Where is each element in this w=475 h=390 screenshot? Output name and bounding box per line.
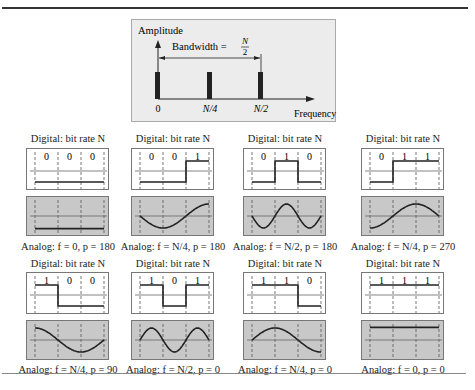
bit-value: 1 <box>425 275 430 286</box>
digital-label: Digital: bit rate N <box>8 133 128 144</box>
bit-value: 0 <box>307 151 312 162</box>
top-rule <box>2 7 468 9</box>
bit-value: 0 <box>379 151 384 162</box>
bandwidth-numerator: N <box>241 36 249 46</box>
spectrum-diagram: Amplitude Bandwidth = N 2 0 N/4 N/2 Freq… <box>131 19 336 122</box>
bit-value: 0 <box>261 151 266 162</box>
bit-value: 1 <box>284 275 289 286</box>
tick-n2: N/2 <box>253 103 268 114</box>
bit-value: 1 <box>379 275 384 286</box>
digital-label: Digital: bit rate N <box>113 133 233 144</box>
bandwidth-denominator: 2 <box>243 47 248 57</box>
bottom-rule <box>2 373 466 374</box>
analog-label: Analog: f = N/4, p = 180 <box>108 241 238 252</box>
analog-signal-box <box>361 320 444 360</box>
digital-label: Digital: bit rate N <box>343 133 463 144</box>
spectrum-bar-n4 <box>207 72 212 99</box>
y-axis-arrow-icon <box>155 40 161 48</box>
bit-value: 1 <box>261 275 266 286</box>
digital-signal-box: 001 <box>131 148 214 190</box>
bit-value: 1 <box>195 275 200 286</box>
digital-signal-box: 110 <box>243 272 326 314</box>
digital-label: Digital: bit rate N <box>225 258 345 269</box>
bit-value: 1 <box>149 275 154 286</box>
analog-label: Analog: f = N/2, p = 180 <box>220 241 350 252</box>
digital-label: Digital: bit rate N <box>225 133 345 144</box>
bit-value: 0 <box>90 151 95 162</box>
analog-label: Analog: f = N/4, p = 270 <box>338 241 468 252</box>
bit-value: 0 <box>90 275 95 286</box>
bit-value: 0 <box>44 151 49 162</box>
bit-value: 0 <box>307 275 312 286</box>
bit-value: 0 <box>67 275 72 286</box>
bit-value: 1 <box>402 275 407 286</box>
spectrum-plot: Amplitude Bandwidth = N 2 0 N/4 N/2 Freq… <box>132 20 337 123</box>
bandwidth-label: Bandwidth = <box>172 41 227 52</box>
x-axis-arrow-icon <box>306 96 315 102</box>
bandwidth-arrow-right-icon <box>254 56 260 60</box>
analog-signal-box <box>131 320 214 360</box>
digital-signal-box: 011 <box>361 148 444 190</box>
bit-value: 1 <box>425 151 430 162</box>
digital-signal-box: 010 <box>243 148 326 190</box>
bit-value: 0 <box>172 151 177 162</box>
analog-signal-box <box>131 196 214 236</box>
digital-signal-box: 000 <box>26 148 109 190</box>
tick-n4: N/4 <box>202 103 217 114</box>
bit-value: 1 <box>402 151 407 162</box>
bit-value: 0 <box>172 275 177 286</box>
bit-value: 1 <box>284 151 289 162</box>
amplitude-axis-label: Amplitude <box>138 25 183 36</box>
frequency-axis-label: Frequency <box>294 108 336 119</box>
spectrum-bar-0 <box>155 72 160 99</box>
bit-value: 0 <box>149 151 154 162</box>
digital-label: Digital: bit rate N <box>113 258 233 269</box>
digital-label: Digital: bit rate N <box>8 258 128 269</box>
analog-signal-box <box>243 196 326 236</box>
analog-signal-box <box>243 320 326 360</box>
digital-signal-box: 100 <box>26 272 109 314</box>
bandwidth-arrow-left-icon <box>159 56 165 60</box>
bit-value: 1 <box>195 151 200 162</box>
bit-value: 1 <box>44 275 49 286</box>
analog-signal-box <box>26 320 109 360</box>
digital-signal-box: 111 <box>361 272 444 314</box>
digital-signal-box: 101 <box>131 272 214 314</box>
analog-signal-box <box>26 196 109 236</box>
digital-label: Digital: bit rate N <box>343 258 463 269</box>
tick-0: 0 <box>156 103 161 114</box>
analog-signal-box <box>361 196 444 236</box>
bit-value: 0 <box>67 151 72 162</box>
spectrum-bar-n2 <box>258 72 263 99</box>
